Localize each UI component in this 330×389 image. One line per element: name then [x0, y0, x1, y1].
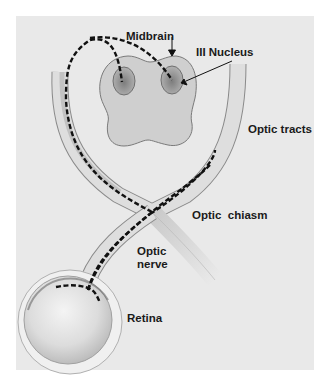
label-retina: Retina: [127, 312, 163, 324]
label-iii-nucleus: III Nucleus: [196, 46, 254, 58]
label-optic-tracts: Optic tracts: [248, 123, 312, 135]
nucleus-left: [113, 67, 135, 95]
midbrain: [100, 56, 197, 146]
visual-pathway-diagram: Midbrain III Nucleus Optic tracts Optic …: [0, 0, 330, 389]
label-optic-nerve-line2: nerve: [137, 258, 168, 270]
eyeball: [18, 270, 122, 374]
label-optic-chiasm: Optic chiasm: [192, 209, 267, 221]
label-midbrain: Midbrain: [126, 30, 174, 42]
label-optic-nerve-line1: Optic: [137, 245, 167, 257]
